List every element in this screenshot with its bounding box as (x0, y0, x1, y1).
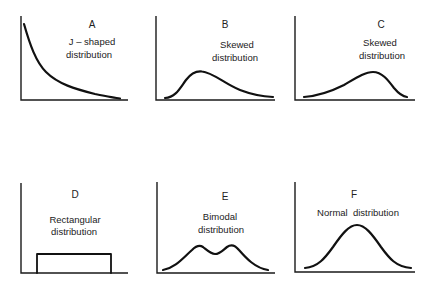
panel-label-line-2: distribution (198, 224, 244, 235)
panel-letter: F (351, 189, 357, 200)
panel-letter: A (89, 19, 96, 30)
left-skewed-curve (304, 72, 407, 97)
panel-f: F Normal distribution (295, 182, 415, 272)
panel-label-line-1: Normal distribution (317, 207, 399, 218)
panel-label-line-1: Rectangular (49, 214, 100, 225)
distribution-shapes-figure: A J – shaped distribution B Skewed distr… (0, 0, 438, 289)
rectangular-shape (37, 254, 111, 273)
panel-b: B Skewed distribution (156, 16, 275, 100)
panel-label-line-1: Bimodal (203, 211, 237, 222)
panel-c: C Skewed distribution (295, 16, 415, 100)
normal-curve (305, 225, 411, 268)
panel-a: A J – shaped distribution (21, 16, 128, 100)
bimodal-curve (163, 245, 268, 270)
panel-letter: C (377, 19, 384, 30)
panel-label-line-1: Skewed (363, 37, 397, 48)
panel-letter: E (222, 191, 229, 202)
panel-letter: D (71, 189, 78, 200)
panel-letter: B (222, 19, 229, 30)
panel-label-line-2: distribution (66, 49, 112, 60)
panel-label-line-2: distribution (212, 52, 258, 63)
panel-e: E Bimodal distribution (157, 182, 275, 273)
right-skewed-curve (165, 71, 273, 98)
panel-label-line-1: J – shaped (69, 36, 115, 47)
panel-label-line-2: distribution (359, 50, 405, 61)
panel-label-line-2: distribution (51, 226, 97, 237)
panel-label-line-1: Skewed (220, 39, 254, 50)
panel-d: D Rectangular distribution (21, 183, 128, 273)
